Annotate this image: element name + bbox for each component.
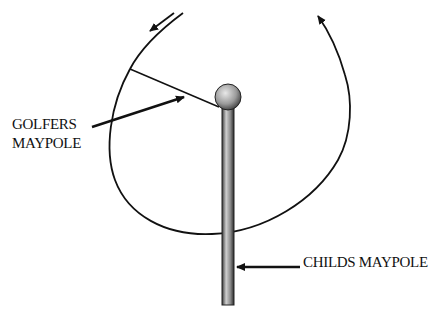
childs-maypole-pole <box>222 108 234 305</box>
golfers-label-line1: GOLFERS <box>12 115 81 134</box>
golfers-maypole-leader-arrow <box>92 97 184 127</box>
childs-maypole-label: CHILDS MAYPOLE <box>303 253 428 272</box>
golfers-maypole-label: GOLFERS MAYPOLE <box>12 115 81 153</box>
golfers-maypole-ball <box>215 84 241 110</box>
golfers-label-line2: MAYPOLE <box>12 134 81 153</box>
